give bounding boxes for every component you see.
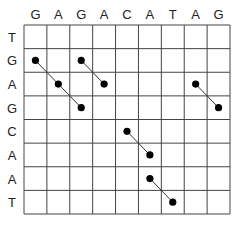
match-dot [169, 199, 176, 206]
row-label: A [8, 77, 17, 92]
row-label: A [8, 172, 17, 187]
match-dot [146, 175, 153, 182]
row-label: T [8, 30, 16, 45]
row-sequence-labels: TGAGCAAT [7, 30, 17, 210]
match-dot [32, 57, 39, 64]
match-dot [192, 80, 199, 87]
row-label: C [7, 124, 16, 139]
column-label: G [76, 7, 86, 22]
match-dot [146, 151, 153, 158]
column-label: A [146, 7, 155, 22]
match-dot [101, 80, 108, 87]
column-label: A [191, 7, 200, 22]
column-label: A [54, 7, 63, 22]
row-label: T [8, 195, 16, 210]
column-label: G [213, 7, 223, 22]
grid [24, 25, 230, 214]
dot-plot-diagram: GAGACATAG TGAGCAAT [0, 0, 242, 227]
match-dot [123, 128, 130, 135]
column-label: G [30, 7, 40, 22]
match-dot [78, 57, 85, 64]
column-label: T [169, 7, 177, 22]
match-dot [55, 80, 62, 87]
column-sequence-labels: GAGACATAG [30, 7, 223, 22]
column-label: C [122, 7, 131, 22]
row-label: G [7, 101, 17, 116]
match-dots [32, 57, 222, 206]
row-label: G [7, 53, 17, 68]
column-label: A [100, 7, 109, 22]
row-label: A [8, 148, 17, 163]
match-dot [78, 104, 85, 111]
match-dot [215, 104, 222, 111]
